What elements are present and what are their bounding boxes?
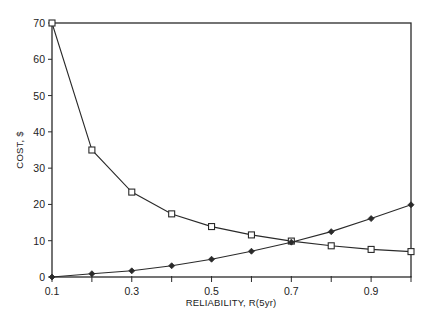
square-marker bbox=[49, 20, 55, 26]
square-marker bbox=[209, 224, 215, 230]
x-tick-label: 0.9 bbox=[364, 285, 379, 297]
diamond-marker bbox=[49, 274, 55, 280]
square-marker bbox=[89, 147, 95, 153]
series-diamond bbox=[49, 202, 414, 280]
diamond-marker bbox=[209, 256, 215, 262]
x-tick-label: 0.1 bbox=[45, 285, 60, 297]
x-tick-label: 0.7 bbox=[284, 285, 299, 297]
y-tick-label: 70 bbox=[33, 17, 45, 29]
square-marker bbox=[368, 246, 374, 252]
series-square bbox=[49, 20, 414, 255]
y-tick-label: 0 bbox=[39, 271, 45, 283]
x-tick-label: 0.5 bbox=[204, 285, 219, 297]
y-axis: 010203040506070 bbox=[33, 17, 52, 283]
y-tick-label: 10 bbox=[33, 235, 45, 247]
diamond-marker bbox=[169, 263, 175, 269]
square-marker bbox=[328, 243, 334, 249]
series-line bbox=[52, 205, 411, 277]
y-tick-label: 40 bbox=[33, 126, 45, 138]
diamond-marker bbox=[248, 248, 254, 254]
diamond-marker bbox=[328, 229, 334, 235]
x-axis-label: RELIABILITY, R(5yr) bbox=[186, 297, 277, 308]
square-marker bbox=[408, 249, 414, 255]
cost-vs-reliability-chart: 010203040506070 0.10.30.50.70.9 RELIABIL… bbox=[0, 0, 430, 326]
series-layer bbox=[49, 20, 414, 280]
y-tick-label: 30 bbox=[33, 162, 45, 174]
diamond-marker bbox=[129, 268, 135, 274]
plot-border bbox=[52, 23, 411, 277]
square-marker bbox=[248, 232, 254, 238]
plot-frame bbox=[52, 23, 411, 277]
diamond-marker bbox=[89, 271, 95, 277]
square-marker bbox=[129, 189, 135, 195]
y-tick-label: 20 bbox=[33, 198, 45, 210]
y-tick-label: 60 bbox=[33, 53, 45, 65]
square-marker bbox=[169, 211, 175, 217]
series-line bbox=[52, 23, 411, 252]
diamond-marker bbox=[368, 216, 374, 222]
diamond-marker bbox=[408, 202, 414, 208]
x-axis: 0.10.30.50.70.9 bbox=[45, 276, 411, 297]
y-axis-label: COST, $ bbox=[14, 131, 25, 169]
x-tick-label: 0.3 bbox=[124, 285, 139, 297]
y-tick-label: 50 bbox=[33, 90, 45, 102]
